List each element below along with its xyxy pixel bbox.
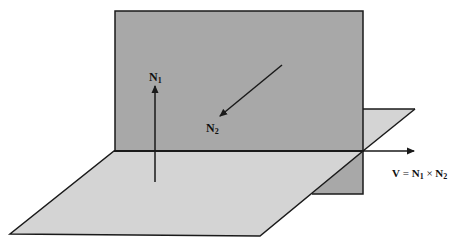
planes-intersection-diagram: N1 N2 V = N1 × N2	[0, 0, 470, 245]
v-equation-label: V = N1 × N2	[392, 167, 447, 181]
horizontal-plane	[10, 151, 363, 236]
